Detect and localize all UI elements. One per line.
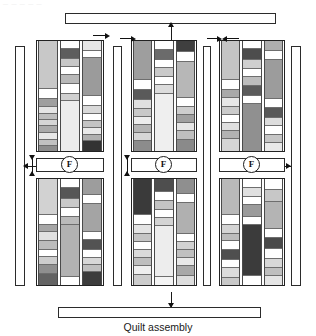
- block-left-bottom-c2-patch-2: [61, 188, 79, 199]
- block-left-bottom-c2-patch-1: [61, 179, 79, 188]
- sashing-row-right: F: [219, 158, 285, 172]
- block-center-top-column-1: [133, 41, 152, 151]
- block-center-bottom-c2-patch-6: [155, 226, 172, 277]
- block-left-top-c2-patch-6: [61, 84, 79, 94]
- block-center-top-column-3: [176, 41, 195, 151]
- block-left-top-c2-patch-7: [61, 94, 79, 102]
- block-right-bottom-c3-patch-2: [265, 190, 282, 202]
- block-center-bottom-c3-patch-8: [177, 266, 194, 276]
- block-center-top-c1-patch-5: [134, 109, 151, 117]
- block-right-bottom-c3-patch-4: [265, 229, 282, 238]
- block-left-bottom-c3-patch-7: [83, 258, 101, 266]
- block-left-top[interactable]: [36, 40, 104, 152]
- block-left-bottom-c3-patch-9: [83, 272, 101, 285]
- block-left-top-c2-patch-3: [61, 59, 79, 68]
- block-center-top-c2-patch-7: [155, 94, 172, 151]
- block-left-bottom-c3-patch-6: [83, 250, 101, 258]
- block-right-top-c2-patch-5: [243, 77, 260, 86]
- block-right-top-c3-patch-4: [265, 99, 282, 108]
- block-right-bottom-c1-patch-6: [222, 250, 239, 259]
- block-right-bottom-c2-patch-1: [243, 179, 260, 188]
- block-right-bottom-c1-patch-1: [222, 179, 239, 215]
- block-right-bottom-c1-patch-5: [222, 241, 239, 250]
- block-center-bottom-column-1: [133, 179, 152, 285]
- block-center-top-c3-patch-4: [177, 98, 194, 107]
- block-right-top-column-3: [264, 41, 283, 151]
- block-right-bottom-c3-patch-6: [265, 249, 282, 258]
- block-center-bottom-c3-patch-7: [177, 258, 194, 266]
- block-right-bottom-c2-patch-7: [243, 276, 260, 285]
- block-right-top-c1-patch-7: [222, 123, 239, 131]
- block-left-top-c3-patch-5: [83, 106, 101, 114]
- block-right-top-c2-patch-8: [243, 104, 260, 151]
- block-right-bottom-c2-patch-4: [243, 205, 260, 216]
- block-left-bottom-c1-patch-9: [39, 274, 57, 285]
- block-right-top-c3-patch-7: [265, 126, 282, 134]
- right-border-leader-arrow-icon: [286, 163, 291, 169]
- block-left-top-c3-patch-6: [83, 114, 101, 121]
- block-right-top-column-2: [242, 41, 261, 151]
- block-left-top-c3-patch-4: [83, 96, 101, 105]
- block-left-bottom-c2-patch-3: [61, 199, 79, 208]
- block-center-bottom-c2-patch-3: [155, 201, 172, 210]
- block-center-top-c3-patch-9: [177, 140, 194, 151]
- block-center-bottom-c1-patch-5: [134, 242, 151, 250]
- block-center-top-c3-patch-5: [177, 107, 194, 115]
- block-center-top-c2-patch-1: [155, 41, 172, 50]
- block-right-bottom-c2-patch-2: [243, 188, 260, 197]
- block-center-top[interactable]: [131, 40, 197, 152]
- block-center-bottom-c1-patch-6: [134, 250, 151, 258]
- block-left-top-c1-patch-7: [39, 126, 57, 133]
- block-left-bottom-c2-patch-4: [61, 208, 79, 217]
- block-left-bottom-column-3: [82, 179, 102, 285]
- block-right-bottom-c3-patch-1: [265, 179, 282, 190]
- block-right-bottom-c2-patch-3: [243, 197, 260, 206]
- block-right-top-c3-patch-9: [265, 143, 282, 151]
- block-left-top-c1-patch-3: [39, 99, 57, 107]
- block-left-top-c3-patch-2: [83, 51, 101, 58]
- block-right-top-c1-patch-9: [222, 139, 239, 150]
- block-center-bottom-c1-patch-1: [134, 179, 151, 215]
- block-right-top-c2-patch-3: [243, 60, 260, 69]
- block-center-bottom-c3-patch-9: [177, 276, 194, 285]
- block-center-bottom-c3-patch-6: [177, 250, 194, 258]
- block-right-top-c3-patch-3: [265, 60, 282, 99]
- block-center-top-c3-patch-6: [177, 115, 194, 123]
- block-left-top-c3-patch-3: [83, 58, 101, 96]
- block-center-bottom-c3-patch-1: [177, 179, 194, 194]
- block-right-bottom-c1-patch-3: [222, 225, 239, 234]
- block-right-top-c3-patch-1: [265, 41, 282, 51]
- block-left-bottom[interactable]: [36, 178, 104, 286]
- block-left-top-c3-patch-7: [83, 121, 101, 128]
- inner-vertical-sashing-1: [113, 46, 122, 286]
- block-right-bottom-column-3: [264, 179, 283, 285]
- block-right-top-c2-patch-1: [243, 41, 260, 49]
- block-center-top-c1-patch-8: [134, 133, 151, 141]
- block-left-bottom-c1-patch-6: [39, 250, 57, 258]
- block-center-top-c2-patch-6: [155, 85, 172, 94]
- block-right-bottom[interactable]: [219, 178, 285, 286]
- block-right-top-c2-patch-7: [243, 96, 260, 104]
- block-right-top-column-1: [221, 41, 240, 151]
- block-right-bottom-c2-patch-5: [243, 217, 260, 226]
- block-right-top-c1-patch-3: [222, 90, 239, 98]
- block-center-bottom[interactable]: [131, 178, 197, 286]
- inner-vertical-sashing-2: [203, 46, 211, 286]
- diagram-caption: Quilt assembly: [0, 321, 316, 333]
- block-left-bottom-c1-patch-1: [39, 179, 57, 215]
- block-left-bottom-c1-patch-3: [39, 225, 57, 233]
- block-right-top-c1-patch-2: [222, 80, 239, 90]
- block-right-bottom-c1-patch-2: [222, 215, 239, 224]
- block-left-top-column-1: [38, 41, 58, 151]
- block-center-bottom-c3-patch-3: [177, 203, 194, 234]
- block-center-top-c3-patch-2: [177, 52, 194, 61]
- block-left-bottom-c1-patch-4: [39, 232, 57, 241]
- block-left-top-c2-patch-4: [61, 67, 79, 75]
- block-right-top[interactable]: [219, 40, 285, 152]
- block-right-bottom-c2-patch-6: [243, 225, 260, 276]
- block-center-top-c1-patch-7: [134, 125, 151, 133]
- block-center-top-c3-patch-3: [177, 62, 194, 98]
- block-right-bottom-c3-patch-7: [265, 259, 282, 268]
- block-left-bottom-c2-patch-6: [61, 225, 79, 278]
- block-center-top-c2-patch-3: [155, 60, 172, 68]
